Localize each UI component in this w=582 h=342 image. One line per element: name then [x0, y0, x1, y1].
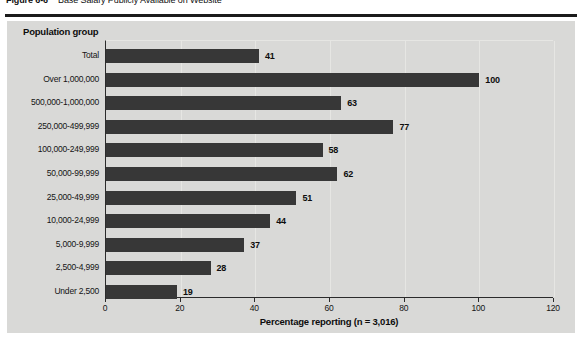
- bar-row: 19: [106, 285, 554, 299]
- x-tick-mark-40: [254, 298, 255, 302]
- category-label: 25,000-49,999: [47, 192, 99, 202]
- bar-8: [106, 214, 270, 228]
- category-label: 5,000-9,999: [56, 239, 99, 249]
- bar-row: 41: [106, 49, 554, 63]
- bar-5: [106, 143, 323, 157]
- bar-row: 51: [106, 191, 554, 205]
- x-tick-mark-60: [329, 298, 330, 302]
- bar-row: 77: [106, 120, 554, 134]
- caption-divider-rule: [5, 14, 577, 17]
- chart-panel: Population group TotalOver 1,000,000500,…: [7, 21, 575, 333]
- plot-area: 41100637758625144372819: [105, 40, 553, 298]
- category-label: 10,000-24,999: [47, 215, 99, 225]
- bar-value-label: 100: [485, 75, 499, 85]
- x-tick-label-80: 80: [399, 303, 408, 313]
- figure-number: Figure 6-6: [6, 0, 48, 5]
- bar-row: 28: [106, 261, 554, 275]
- category-label: 250,000-499,999: [38, 121, 99, 131]
- bar-7: [106, 191, 296, 205]
- bar-4: [106, 120, 393, 134]
- x-tick-mark-0: [105, 298, 106, 302]
- x-tick-label-60: 60: [324, 303, 333, 313]
- y-axis-category-labels: TotalOver 1,000,000500,000-1,000,000250,…: [7, 40, 99, 298]
- bar-value-label: 19: [183, 287, 193, 297]
- bar-10: [106, 261, 211, 275]
- x-tick-label-120: 120: [546, 303, 560, 313]
- bar-row: 100: [106, 73, 554, 87]
- category-label: 2,500-4,999: [56, 262, 99, 272]
- bar-11: [106, 285, 177, 299]
- bar-value-label: 28: [217, 263, 227, 273]
- bar-value-label: 51: [302, 193, 312, 203]
- bar-value-label: 44: [276, 216, 286, 226]
- bar-value-label: 41: [265, 51, 275, 61]
- bar-value-label: 37: [250, 240, 260, 250]
- x-tick-label-100: 100: [472, 303, 486, 313]
- category-label: 500,000-1,000,000: [31, 97, 99, 107]
- category-label: Over 1,000,000: [43, 74, 99, 84]
- x-tick-mark-100: [478, 298, 479, 302]
- figure-page: Figure 6-6Base Salary Publicly Available…: [0, 0, 582, 342]
- bar-row: 58: [106, 143, 554, 157]
- bar-2: [106, 73, 479, 87]
- bar-row: 37: [106, 238, 554, 252]
- x-tick-mark-120: [553, 298, 554, 302]
- x-tick-label-40: 40: [250, 303, 259, 313]
- gridline-120: [554, 41, 555, 297]
- bar-1: [106, 49, 259, 63]
- category-label: Total: [82, 50, 99, 60]
- figure-title: Base Salary Publicly Available on Websit…: [58, 0, 222, 5]
- bar-row: 44: [106, 214, 554, 228]
- x-axis-title: Percentage reporting (n = 3,016): [105, 316, 553, 327]
- x-tick-label-20: 20: [175, 303, 184, 313]
- bar-3: [106, 96, 341, 110]
- bar-row: 63: [106, 96, 554, 110]
- x-tick-label-0: 0: [103, 303, 108, 313]
- bar-value-label: 62: [343, 169, 353, 179]
- bar-9: [106, 238, 244, 252]
- x-tick-mark-80: [404, 298, 405, 302]
- bar-value-label: 77: [399, 122, 409, 132]
- category-label: Under 2,500: [54, 286, 99, 296]
- bar-value-label: 58: [329, 145, 339, 155]
- bar-6: [106, 167, 337, 181]
- category-label: 100,000-249,999: [38, 144, 99, 154]
- category-label: 50,000-99,999: [47, 168, 99, 178]
- bar-row: 62: [106, 167, 554, 181]
- bar-value-label: 63: [347, 98, 357, 108]
- x-tick-mark-20: [180, 298, 181, 302]
- figure-caption: Figure 6-6Base Salary Publicly Available…: [6, 0, 222, 5]
- chart-title: Population group: [23, 26, 98, 37]
